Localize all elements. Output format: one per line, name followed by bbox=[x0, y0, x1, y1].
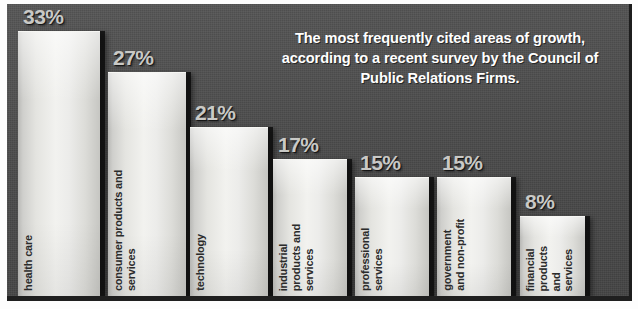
bar-category-label: financial products and services bbox=[524, 246, 575, 291]
bar-value-label: 15% bbox=[360, 151, 401, 175]
chart-headline: The most frequently cited areas of growt… bbox=[262, 29, 618, 89]
bar-5[interactable]: professional services bbox=[355, 177, 429, 296]
bar-category-label: industrial products and services bbox=[277, 224, 315, 291]
bar-7[interactable]: financial products and services bbox=[520, 216, 585, 296]
bar-category-label: government and non-profit bbox=[441, 219, 467, 291]
bar-category-label: professional services bbox=[359, 228, 385, 291]
bar-category-label: health care bbox=[22, 235, 35, 291]
bar-value-label: 21% bbox=[195, 101, 236, 125]
bar-category-label: consumer products and services bbox=[112, 170, 138, 291]
bar-value-label: 17% bbox=[278, 133, 319, 157]
bar-category-label-wrap: financial products and services bbox=[524, 212, 575, 291]
bar-value-label: 27% bbox=[113, 46, 154, 70]
bar-4[interactable]: industrial products and services bbox=[273, 159, 347, 296]
bar-1[interactable]: health care bbox=[18, 31, 100, 296]
bar-category-label-wrap: technology bbox=[194, 123, 207, 291]
bar-3[interactable]: technology bbox=[190, 127, 268, 296]
bar-category-label-wrap: industrial products and services bbox=[277, 155, 315, 291]
bar-value-label: 8% bbox=[525, 190, 554, 214]
bar-category-label-wrap: professional services bbox=[359, 173, 385, 291]
bar-category-label-wrap: health care bbox=[22, 27, 35, 291]
bar-category-label-wrap: government and non-profit bbox=[441, 173, 467, 291]
bar-2[interactable]: consumer products and services bbox=[108, 72, 186, 296]
bar-value-label: 33% bbox=[23, 5, 64, 29]
chart-panel: The most frequently cited areas of growt… bbox=[7, 4, 632, 301]
bar-category-label-wrap: consumer products and services bbox=[112, 68, 138, 291]
bar-category-label: technology bbox=[194, 234, 207, 291]
bar-value-label: 15% bbox=[442, 151, 483, 175]
bar-6[interactable]: government and non-profit bbox=[437, 177, 511, 296]
chart-figure: The most frequently cited areas of growt… bbox=[0, 0, 638, 309]
